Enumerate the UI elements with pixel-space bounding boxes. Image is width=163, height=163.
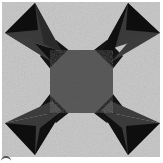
center-octagon: [50, 50, 113, 113]
partial-glyph-fragment: [1, 156, 11, 163]
quilt-block-image: [0, 0, 163, 163]
